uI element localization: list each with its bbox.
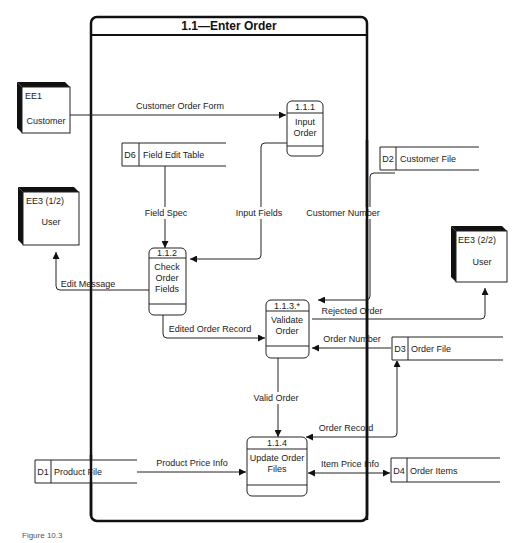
process-1-1-4[interactable]: 1.1.4 Update Order Files (247, 437, 307, 496)
data-flow-diagram: 1.1—Enter Order Customer Order Form Fiel… (0, 0, 524, 543)
store-id: D1 (37, 467, 49, 477)
store-id: D2 (382, 154, 394, 164)
store-name: Order Items (410, 466, 458, 476)
flow-customer-number (318, 173, 395, 300)
store-name: Customer File (400, 154, 456, 164)
entity-name: User (41, 217, 60, 227)
external-entity-ee3-1[interactable]: EE3 (1/2) User (18, 187, 79, 245)
entity-id: EE3 (2/2) (458, 235, 496, 245)
flow-label-rejected-order: Rejected Order (321, 306, 382, 316)
process-1-1-2[interactable]: 1.1.2 Check Order Fields (149, 248, 186, 315)
process-id: 1.1.4 (267, 438, 287, 448)
process-name-line: Update Order (250, 453, 305, 463)
store-name: Order File (411, 344, 451, 354)
process-1-1-1[interactable]: 1.1.1 Input Order (287, 101, 323, 156)
data-store-d1[interactable]: D1 Product File (34, 459, 137, 484)
process-name-line: Order (293, 128, 316, 138)
external-entity-ee1[interactable]: EE1 Customer (17, 82, 70, 133)
process-name-line: Order (275, 326, 298, 336)
process-name-line: Input (295, 117, 316, 127)
figure-caption: Figure 10.3 (22, 531, 63, 540)
entity-name: Customer (26, 116, 65, 126)
process-1-1-3[interactable]: 1.1.3.* Validate Order (266, 300, 309, 358)
process-frame: 1.1—Enter Order (91, 17, 367, 521)
flow-label-order-number: Order Number (323, 334, 381, 344)
entity-id: EE1 (25, 91, 42, 101)
flow-label-order-record: Order Record (319, 423, 374, 433)
external-entity-ee3-2[interactable]: EE3 (2/2) User (451, 226, 507, 282)
flow-label-product-price-info: Product Price Info (156, 458, 228, 468)
process-name-line: Check (154, 262, 180, 272)
process-id: 1.1.3.* (274, 301, 301, 311)
store-id: D6 (124, 150, 136, 160)
data-store-d6[interactable]: D6 Field Edit Table (121, 142, 226, 166)
flow-label-item-price-info: Item Price Info (321, 459, 379, 469)
entity-name: User (472, 257, 491, 267)
process-id: 1.1.2 (157, 248, 177, 258)
data-store-d2[interactable]: D2 Customer File (379, 146, 479, 170)
store-name: Product File (54, 467, 102, 477)
flow-label-input-fields: Input Fields (236, 208, 283, 218)
flow-label-customer-number: Customer Number (306, 208, 380, 218)
store-id: D3 (394, 344, 406, 354)
store-name: Field Edit Table (143, 150, 204, 160)
process-id: 1.1.1 (295, 102, 315, 112)
flow-label-edited-order-record: Edited Order Record (169, 324, 252, 334)
flow-label-valid-order: Valid Order (254, 393, 299, 403)
data-store-d3[interactable]: D3 Order File (391, 336, 503, 361)
flow-label-customer-order-form: Customer Order Form (136, 101, 224, 111)
process-name-line: Files (267, 464, 287, 474)
process-name-line: Order (155, 273, 178, 283)
data-store-d4[interactable]: D4 Order Items (390, 457, 500, 483)
store-id: D4 (393, 466, 405, 476)
entity-id: EE3 (1/2) (26, 196, 64, 206)
process-name-line: Fields (155, 284, 180, 294)
flow-label-edit-message: Edit Message (61, 279, 116, 289)
diagram-title: 1.1—Enter Order (181, 19, 277, 33)
process-name-line: Validate (271, 315, 303, 325)
flow-label-field-spec: Field Spec (145, 208, 188, 218)
